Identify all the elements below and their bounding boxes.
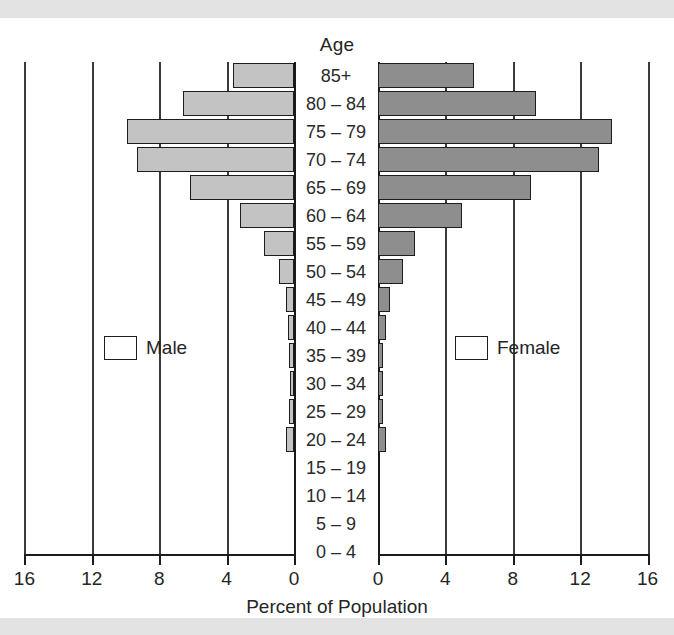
top-gray-band xyxy=(0,0,674,18)
bar-female xyxy=(378,259,403,284)
pyramid-row: 30 – 34 xyxy=(0,370,674,398)
x-tick-left-12-label: 12 xyxy=(72,568,112,590)
chart-area: Age 85+80 – 8475 – 7970 – 7465 – 6960 – … xyxy=(0,18,674,618)
age-group-label: 70 – 74 xyxy=(296,146,376,174)
bar-male xyxy=(286,287,294,312)
bar-male xyxy=(127,119,294,144)
bar-male xyxy=(286,427,294,452)
pyramid-row: 60 – 64 xyxy=(0,202,674,230)
pyramid-row: 45 – 49 xyxy=(0,286,674,314)
age-group-label: 5 – 9 xyxy=(296,510,376,538)
pyramid-row: 20 – 24 xyxy=(0,426,674,454)
age-group-label: 30 – 34 xyxy=(296,370,376,398)
age-group-label: 60 – 64 xyxy=(296,202,376,230)
x-tick-left-12-tick xyxy=(92,554,94,565)
x-tick-left-8-label: 8 xyxy=(139,568,179,590)
age-group-label: 50 – 54 xyxy=(296,258,376,286)
bar-female xyxy=(378,343,383,368)
bar-female xyxy=(378,175,531,200)
x-tick-right-4-tick xyxy=(445,554,447,565)
x-tick-left-16-label: 16 xyxy=(4,568,44,590)
bar-female xyxy=(378,315,386,340)
legend-swatch-male xyxy=(104,336,137,360)
pyramid-row: 85+ xyxy=(0,62,674,90)
pyramid-row: 75 – 79 xyxy=(0,118,674,146)
bar-male xyxy=(289,343,294,368)
x-tick-right-16-tick xyxy=(648,554,650,565)
pyramid-row: 65 – 69 xyxy=(0,174,674,202)
plot-area: 85+80 – 8475 – 7970 – 7465 – 6960 – 6455… xyxy=(0,62,674,554)
x-tick-right-4-label: 4 xyxy=(425,568,465,590)
pyramid-row: 35 – 39 xyxy=(0,342,674,370)
bar-female xyxy=(378,203,462,228)
population-pyramid-figure: Age 85+80 – 8475 – 7970 – 7465 – 6960 – … xyxy=(0,0,674,635)
pyramid-row: 80 – 84 xyxy=(0,90,674,118)
pyramid-row: 55 – 59 xyxy=(0,230,674,258)
bar-male xyxy=(289,399,294,424)
age-group-label: 25 – 29 xyxy=(296,398,376,426)
x-tick-right-0-tick xyxy=(378,554,380,565)
chart-title-age: Age xyxy=(0,34,674,56)
age-group-label: 65 – 69 xyxy=(296,174,376,202)
x-tick-left-0-label: 0 xyxy=(274,568,314,590)
x-tick-right-0-label: 0 xyxy=(358,568,398,590)
x-tick-left-4-tick xyxy=(227,554,229,565)
legend-label-male: Male xyxy=(146,337,187,359)
x-tick-right-8-tick xyxy=(513,554,515,565)
bar-male xyxy=(288,315,294,340)
age-group-label: 10 – 14 xyxy=(296,482,376,510)
legend-label-female: Female xyxy=(497,337,560,359)
bar-female xyxy=(378,147,599,172)
legend-swatch-female xyxy=(455,336,488,360)
age-group-label: 75 – 79 xyxy=(296,118,376,146)
pyramid-row: 10 – 14 xyxy=(0,482,674,510)
bar-male xyxy=(183,91,294,116)
bar-male xyxy=(264,231,294,256)
legend-item-female: Female xyxy=(455,336,560,360)
bar-female xyxy=(378,91,536,116)
age-group-label: 35 – 39 xyxy=(296,342,376,370)
x-axis-label: Percent of Population xyxy=(0,596,674,618)
x-axis: 16128400481216 Percent of Population xyxy=(0,554,674,618)
bar-male xyxy=(190,175,294,200)
x-tick-right-12-tick xyxy=(580,554,582,565)
pyramid-row: 40 – 44 xyxy=(0,314,674,342)
bar-female xyxy=(378,231,415,256)
x-tick-right-12-label: 12 xyxy=(560,568,600,590)
bar-male xyxy=(279,259,294,284)
age-group-label: 15 – 19 xyxy=(296,454,376,482)
age-group-label: 55 – 59 xyxy=(296,230,376,258)
pyramid-row: 15 – 19 xyxy=(0,454,674,482)
bar-female xyxy=(378,287,390,312)
age-group-label: 45 – 49 xyxy=(296,286,376,314)
bar-male xyxy=(137,147,294,172)
bar-female xyxy=(378,427,386,452)
pyramid-row: 70 – 74 xyxy=(0,146,674,174)
bar-male xyxy=(240,203,294,228)
bar-rows-group: 85+80 – 8475 – 7970 – 7465 – 6960 – 6455… xyxy=(0,62,674,554)
bar-female xyxy=(378,399,383,424)
pyramid-row: 5 – 9 xyxy=(0,510,674,538)
pyramid-row: 25 – 29 xyxy=(0,398,674,426)
x-tick-left-16-tick xyxy=(24,554,26,565)
x-tick-left-4-label: 4 xyxy=(207,568,247,590)
age-group-label: 40 – 44 xyxy=(296,314,376,342)
bar-male xyxy=(290,371,294,396)
x-tick-right-8-label: 8 xyxy=(493,568,533,590)
age-group-label: 80 – 84 xyxy=(296,90,376,118)
x-tick-left-8-tick xyxy=(159,554,161,565)
legend-item-male: Male xyxy=(104,336,187,360)
bar-female xyxy=(378,119,612,144)
age-group-label: 85+ xyxy=(296,62,376,90)
bar-male xyxy=(233,63,294,88)
bar-female xyxy=(378,371,383,396)
age-group-label: 20 – 24 xyxy=(296,426,376,454)
x-tick-right-16-label: 16 xyxy=(628,568,668,590)
bottom-gray-band xyxy=(0,618,674,635)
x-tick-left-0-tick xyxy=(294,554,296,565)
pyramid-row: 50 – 54 xyxy=(0,258,674,286)
bar-female xyxy=(378,63,474,88)
